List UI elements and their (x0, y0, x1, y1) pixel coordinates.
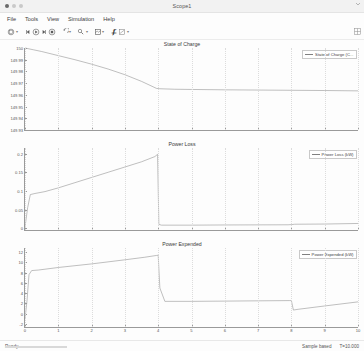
x-axis-tick-label: 7 (257, 328, 259, 333)
grid-line (158, 48, 159, 130)
status-sample-mode: Sample based (302, 344, 331, 349)
y-axis-tick-label: 149.94 (10, 116, 25, 121)
grid-line (258, 248, 259, 327)
config-caret-icon[interactable]: ▾ (102, 30, 104, 34)
plot-axes[interactable]: State of Charge (C... 149.93149.94149.95… (24, 48, 358, 131)
y-axis-tick-label: 150 (16, 46, 25, 51)
progress-indicator (5, 346, 67, 347)
legend-swatch-icon (305, 54, 313, 55)
print-caret-icon[interactable]: ▾ (16, 30, 18, 34)
x-axis-tick-label: 3 (124, 328, 126, 333)
expand-icon[interactable] (355, 1, 361, 7)
grid-line (125, 248, 126, 327)
cursor-caret-icon[interactable]: ▾ (86, 30, 88, 34)
y-axis-tick-label: 0.1 (17, 188, 25, 193)
x-axis-tick-label: 2 (90, 328, 92, 333)
grid-line (291, 148, 292, 230)
grid-line (158, 248, 159, 327)
plot-state-of-charge[interactable]: State of Charge State of Charge (C... 14… (0, 40, 364, 140)
legend-label: Power Expended (kW) (312, 252, 354, 257)
print-icon[interactable] (7, 28, 15, 36)
plot-power-expended[interactable]: Power Expended Power Expended (kW) -2024… (0, 240, 364, 340)
grid-line (225, 248, 226, 327)
toolbar-group-print: ▾ (7, 28, 19, 36)
plot-stack: State of Charge State of Charge (C... 14… (0, 40, 364, 340)
plot-axes[interactable]: Power Loss (kW) 00.050.10.150.2 (24, 148, 358, 231)
simulation-rewind-icon[interactable] (61, 28, 69, 36)
toolbar: ▾ ▾ (0, 25, 364, 40)
layout-icon[interactable] (354, 28, 361, 35)
grid-line (291, 48, 292, 130)
configuration-properties-icon[interactable] (94, 28, 102, 36)
x-axis-tick-label: 4 (157, 328, 159, 333)
plot-legend[interactable]: State of Charge (C... (302, 50, 356, 59)
toolbar-group-transport (24, 28, 56, 36)
menu-file[interactable]: File (7, 16, 16, 22)
grid-line (158, 148, 159, 230)
grid-line (192, 248, 193, 327)
rewind-caret-icon[interactable]: ▾ (69, 30, 71, 34)
y-axis-tick-label: 149.93 (10, 128, 25, 133)
menu-simulation[interactable]: Simulation (68, 16, 94, 22)
y-axis-tick-label: 149.98 (10, 69, 25, 74)
plot-legend[interactable]: Power Loss (kW) (309, 150, 357, 159)
style-caret-icon[interactable]: ▾ (127, 30, 129, 34)
y-axis-tick-mark (25, 130, 27, 131)
grid-line (125, 148, 126, 230)
y-axis-tick-label: 0.15 (15, 170, 25, 175)
plot-axes[interactable]: Power Expended (kW) -2024681012012345678… (24, 248, 358, 328)
highlight-signal-icon[interactable]: f (110, 28, 118, 36)
legend-label: State of Charge (C... (315, 52, 353, 57)
toolbar-group-style: f ▾ (110, 28, 130, 36)
plot-legend[interactable]: Power Expended (kW) (299, 250, 357, 259)
y-axis-tick-label: 149.95 (10, 104, 25, 109)
grid-line (325, 248, 326, 327)
x-axis-tick-label: 8 (290, 328, 292, 333)
y-axis-tick-label: 0.2 (17, 151, 25, 156)
svg-text:f: f (111, 28, 116, 36)
legend-swatch-icon (302, 254, 310, 255)
cursor-measurement-icon[interactable] (77, 28, 85, 36)
status-time: T=10.000 (339, 344, 359, 349)
menu-help[interactable]: Help (103, 16, 115, 22)
style-icon[interactable] (118, 28, 126, 36)
grid-line (291, 248, 292, 327)
legend-swatch-icon (312, 154, 320, 155)
stop-icon[interactable] (48, 28, 56, 36)
toolbar-group-cursor: ▾ (77, 28, 89, 36)
x-axis-tick-label: 9 (324, 328, 326, 333)
scope-window: Scope1 File Tools View Simulation Help ▾ (0, 0, 364, 351)
plot-power-loss[interactable]: Power Loss Power Loss (kW) 00.050.10.150… (0, 140, 364, 240)
y-axis-tick-label: 149.97 (10, 81, 25, 86)
y-axis-tick-label: 149.99 (10, 57, 25, 62)
grid-line (358, 248, 359, 327)
grid-line (192, 48, 193, 130)
grid-line (25, 48, 26, 130)
grid-line (225, 48, 226, 130)
legend-label: Power Loss (kW) (322, 152, 354, 157)
grid-line (58, 248, 59, 327)
x-axis-tick-label: 10 (356, 328, 361, 333)
x-axis-tick-label: 6 (224, 328, 226, 333)
grid-line (258, 48, 259, 130)
step-forward-icon[interactable] (40, 28, 48, 36)
grid-line (325, 148, 326, 230)
x-axis-tick-label: 5 (190, 328, 192, 333)
run-icon[interactable] (32, 28, 40, 36)
toolbar-group-rewind: ▾ (61, 28, 73, 36)
grid-line (125, 48, 126, 130)
grid-line (225, 148, 226, 230)
grid-line (25, 148, 26, 230)
x-axis-tick-label: 0 (24, 328, 26, 333)
step-back-icon[interactable] (24, 28, 32, 36)
grid-line (358, 148, 359, 230)
grid-line (92, 148, 93, 230)
menu-view[interactable]: View (47, 16, 59, 22)
grid-line (258, 148, 259, 230)
grid-line (358, 48, 359, 130)
menu-bar: File Tools View Simulation Help (0, 13, 364, 25)
menu-tools[interactable]: Tools (25, 16, 38, 22)
grid-line (25, 248, 26, 327)
y-axis-tick-label: 0.05 (15, 207, 25, 212)
grid-line (92, 48, 93, 130)
